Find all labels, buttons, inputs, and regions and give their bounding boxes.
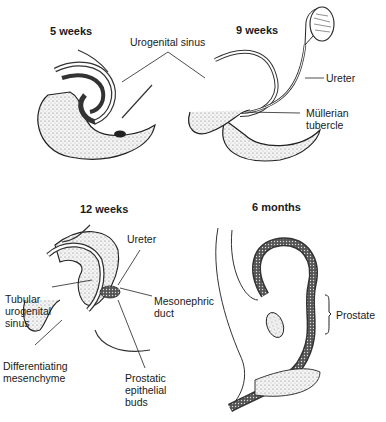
- panel-title-5-weeks: 5 weeks: [50, 25, 92, 37]
- panel-title-12-weeks: 12 weeks: [80, 203, 128, 215]
- panel-5-weeks-drawing: [38, 50, 155, 159]
- label-tubular-line3: sinus: [5, 317, 30, 329]
- label-tubular-line2: urogenital: [5, 305, 51, 317]
- label-differentiating-line2: mesenchyme: [3, 372, 65, 384]
- label-urogenital-sinus: Urogenital sinus: [130, 36, 205, 48]
- label-mullerian-tubercle-line2: tubercle: [306, 119, 343, 131]
- label-differentiating-line1: Differentiating: [3, 360, 68, 372]
- panel-12-weeks-drawing: [23, 225, 152, 368]
- label-prostatic-line3: buds: [125, 396, 148, 408]
- urogenital-sinus-leader: [122, 52, 205, 82]
- panel-title-6-months: 6 months: [252, 201, 301, 213]
- label-prostate: Prostate: [336, 309, 375, 321]
- label-mullerian-tubercle-line1: Müllerian: [306, 107, 349, 119]
- label-ureter-12-weeks: Ureter: [127, 233, 156, 245]
- label-mesonephric-line1: Mesonephric: [154, 295, 214, 307]
- panel-title-9-weeks: 9 weeks: [236, 24, 278, 36]
- panel-6-months-drawing: [216, 228, 331, 408]
- label-prostatic-line2: epithelial: [125, 384, 166, 396]
- label-tubular-line1: Tubular: [5, 293, 40, 305]
- diagram-artwork: [0, 0, 386, 422]
- label-prostatic-line1: Prostatic: [125, 372, 166, 384]
- label-ureter-9-weeks: Ureter: [326, 72, 355, 84]
- label-mesonephric-line2: duct: [154, 307, 174, 319]
